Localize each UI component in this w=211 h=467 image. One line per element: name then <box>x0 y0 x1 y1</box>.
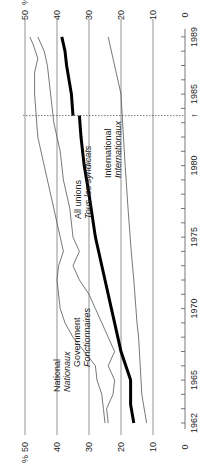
series-line-all-unions-segment-2 <box>62 37 73 116</box>
y-tick-label-bottom-40: 40 <box>52 442 62 452</box>
x-tick-label-1980: 1980 <box>189 156 199 176</box>
y-tick-label-bottom-10: 10 <box>148 442 158 452</box>
y-tick-label-top-0: 0 <box>180 12 190 17</box>
series-label-international-fr: Internationaux <box>113 120 123 178</box>
x-tick-label-1985: 1985 <box>189 84 199 104</box>
y-tick-label-bottom-0: 0 <box>180 444 190 449</box>
series-label-all-unions-en: All unions <box>73 179 83 219</box>
y-tick-label-bottom-20: 20 <box>116 442 126 452</box>
x-tick-label-1965: 1965 <box>189 370 199 390</box>
series-label-national-fr: Nationaux <box>62 351 72 392</box>
series-label-national-en: National <box>52 359 62 392</box>
break-marker-label: ↑ <box>189 113 199 118</box>
y-unit-label-top: % <box>20 0 30 5</box>
series-label-government-en: Government <box>72 317 82 367</box>
y-tick-label-bottom-30: 30 <box>84 442 94 452</box>
y-unit-label-bottom: % <box>20 455 30 463</box>
y-tick-label-top-10: 10 <box>148 10 158 20</box>
x-tick-label-1975: 1975 <box>189 227 199 247</box>
y-tick-label-bottom-50: 50 <box>20 442 30 452</box>
union-membership-chart: 0010102020303040405050%%1962196519701975… <box>0 0 211 467</box>
y-tick-label-top-50: 50 <box>20 10 30 20</box>
series-label-all-unions-fr: Tous les syndicats <box>83 145 93 219</box>
series-label-international-en: International <box>103 128 113 178</box>
x-tick-label-1989: 1989 <box>189 27 199 47</box>
y-tick-label-top-30: 30 <box>84 10 94 20</box>
y-tick-label-top-40: 40 <box>52 10 62 20</box>
series-label-government-fr: Fonctionnaires <box>82 307 92 367</box>
x-tick-label-1962: 1962 <box>189 413 199 433</box>
x-tick-label-1970: 1970 <box>189 299 199 319</box>
y-tick-label-top-20: 20 <box>116 10 126 20</box>
series-line-international <box>108 37 146 423</box>
